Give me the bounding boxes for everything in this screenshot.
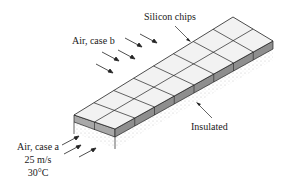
air-case-a-temperature: 30°C — [8, 167, 68, 179]
air-case-a-label: Air, case a — [8, 141, 68, 153]
diagram: Silicon chips Air, case b Insulated Air,… — [0, 0, 289, 187]
air-case-b-label: Air, case b — [72, 35, 115, 47]
silicon-chips-label: Silicon chips — [144, 11, 196, 23]
air-case-a-speed: 25 m/s — [8, 154, 68, 166]
insulated-label: Insulated — [191, 121, 228, 133]
